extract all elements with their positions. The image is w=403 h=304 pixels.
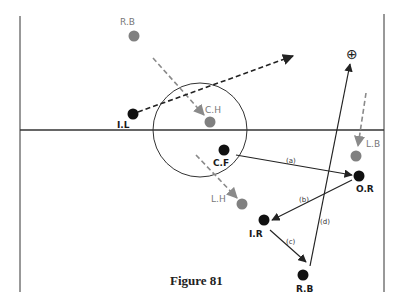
lb-defender-run <box>358 93 366 146</box>
attacker-or-label: O.R <box>356 184 374 194</box>
defender-lb <box>351 151 362 162</box>
defender-rb-label: R.B <box>120 17 135 27</box>
attacker-cf <box>219 145 230 156</box>
figure-caption: Figure 81 <box>170 273 223 288</box>
pass-c <box>270 230 306 262</box>
hockey-play-diagram: (a) (b) (c) (d) ⊕ R.B C.H L.B L.H I.L C.… <box>0 0 403 304</box>
attacker-il <box>128 109 139 120</box>
defender-lh <box>237 199 248 210</box>
attacker-il-label: I.L <box>117 120 130 130</box>
attacker-ir <box>259 215 270 226</box>
pass-a-label: (a) <box>286 157 296 165</box>
defender-ch-label: C.H <box>205 105 221 115</box>
pass-d <box>310 64 350 266</box>
target-marker-icon: ⊕ <box>346 46 358 62</box>
attacker-rb <box>298 270 309 281</box>
attacker-cf-label: C.F <box>213 158 229 168</box>
pass-c-label: (c) <box>286 238 296 246</box>
defender-lb-label: L.B <box>366 139 380 149</box>
pass-d-label: (d) <box>320 218 330 226</box>
attacker-rb-label: R.B <box>296 284 314 294</box>
pass-b <box>272 180 352 220</box>
defender-ch <box>205 117 216 128</box>
defender-lh-label: L.H <box>211 194 226 204</box>
il-run <box>138 56 293 112</box>
pass-b-label: (b) <box>299 196 309 204</box>
defender-rb <box>129 31 140 42</box>
rb-defender-run <box>153 58 204 115</box>
attacker-ir-label: I.R <box>249 229 263 239</box>
diagram-canvas: (a) (b) (c) (d) ⊕ R.B C.H L.B L.H I.L C.… <box>0 0 403 304</box>
attacker-or <box>354 171 365 182</box>
